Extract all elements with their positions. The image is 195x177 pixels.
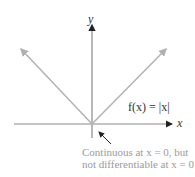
- annotation-line-2: not differentiable at x = 0: [82, 158, 194, 170]
- origin-point: [90, 122, 94, 126]
- function-label: f(x) = |x|: [128, 100, 170, 115]
- curve-left-branch: [21, 49, 92, 124]
- y-axis-label: y: [88, 12, 93, 27]
- annotation-line-1: Continuous at x = 0, but: [82, 146, 188, 158]
- annotation-arrow: [99, 132, 111, 144]
- x-axis-label: x: [177, 116, 182, 131]
